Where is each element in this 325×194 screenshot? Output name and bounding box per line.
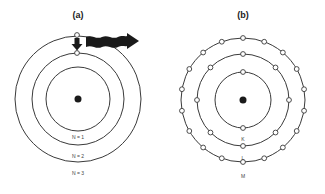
atomic-model-diagram: (a) N = 1 N = 2 N = 3 (b) K L M — [0, 0, 325, 194]
electron-m — [241, 36, 246, 41]
electron-m — [201, 145, 206, 150]
panel-b-label: (b) — [237, 10, 249, 20]
shell-label-k: K — [241, 136, 245, 142]
electron-m — [180, 87, 185, 92]
electron-m — [302, 108, 307, 113]
electron-m — [280, 50, 285, 55]
electron-l — [273, 65, 278, 70]
electron-m — [294, 67, 299, 72]
shell-label-n3: N = 3 — [72, 170, 84, 176]
nucleus — [75, 96, 82, 103]
shell-label-l: L — [242, 155, 245, 161]
panel-a-bohr-transition: (a) N = 1 N = 2 N = 3 — [15, 10, 141, 176]
electron-l — [195, 98, 200, 103]
panel-b-electron-shells: (b) K L M — [180, 10, 307, 179]
electron-l — [208, 65, 213, 70]
electron-l — [241, 52, 246, 57]
electron-l — [208, 130, 213, 135]
electron-m — [262, 156, 267, 161]
shell-label-m: M — [241, 173, 245, 179]
electron-final — [75, 51, 80, 56]
electron-m — [180, 108, 185, 113]
shell-label-n2: N = 2 — [72, 153, 84, 159]
photon-wavy-arrow-icon — [86, 33, 139, 49]
electron-k — [241, 126, 246, 131]
electron-m — [187, 67, 192, 72]
electron-m — [280, 145, 285, 150]
shell-label-n1: N = 1 — [72, 134, 84, 140]
electron-m — [262, 39, 267, 44]
electron-l — [241, 144, 246, 149]
electron-l — [287, 98, 292, 103]
electron-m — [219, 156, 224, 161]
electron-m — [201, 50, 206, 55]
electron-m — [302, 87, 307, 92]
electron-k — [241, 70, 246, 75]
panel-a-label: (a) — [73, 10, 84, 20]
electron-l — [273, 130, 278, 135]
down-arrow-icon — [72, 38, 83, 51]
electron-m — [187, 129, 192, 134]
electron-m — [219, 39, 224, 44]
electron-initial — [75, 33, 80, 38]
nucleus — [240, 97, 247, 104]
electron-m — [294, 129, 299, 134]
